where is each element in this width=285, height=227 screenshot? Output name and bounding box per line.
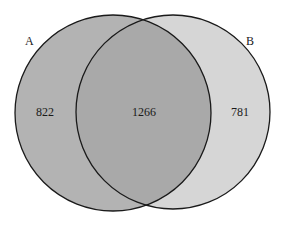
b-only-count: 781 bbox=[231, 105, 249, 119]
intersection-count: 1266 bbox=[132, 105, 156, 119]
set-a-label: A bbox=[25, 34, 34, 48]
a-only-count: 822 bbox=[36, 105, 54, 119]
venn-svg: A B 822 1266 781 bbox=[0, 0, 285, 227]
set-b-label: B bbox=[246, 34, 254, 48]
venn-diagram: A B 822 1266 781 bbox=[0, 0, 285, 227]
